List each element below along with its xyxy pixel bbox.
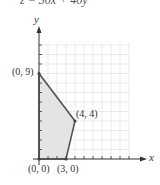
feasible-region-plot	[0, 0, 160, 185]
x-axis-label: x	[149, 151, 154, 163]
vertex-label-4-4: (4, 4)	[76, 108, 98, 119]
x-axis-arrow-icon	[140, 157, 147, 162]
vertex-label-0-0: (0, 0)	[28, 163, 50, 174]
y-axis-label: y	[34, 13, 39, 25]
vertex-label-3-0: (3, 0)	[57, 163, 79, 174]
y-axis-arrow-icon	[37, 26, 42, 33]
vertex-label-0-9: (0, 9)	[12, 66, 34, 77]
